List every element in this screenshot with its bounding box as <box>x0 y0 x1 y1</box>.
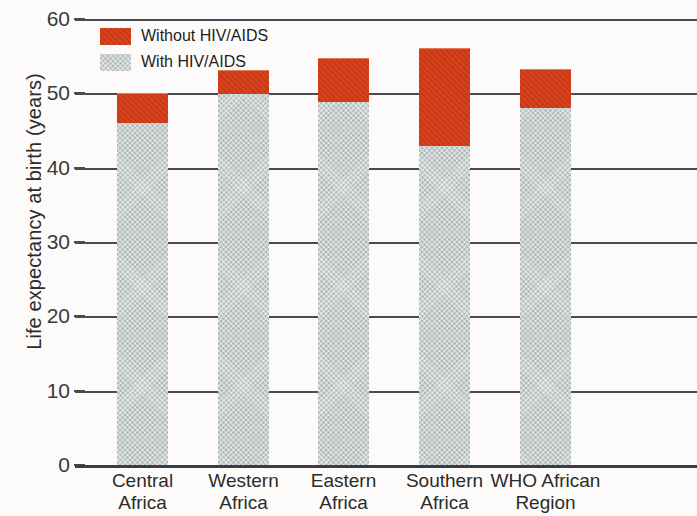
y-axis-tick-0: 0 <box>26 465 70 489</box>
y-axis-title: Life expectancy at birth (years) <box>23 0 46 432</box>
y-axis-tick-label: 60 <box>26 7 70 31</box>
gridline-10 <box>75 391 697 393</box>
legend-swatch-without-hiv-icon <box>100 28 131 45</box>
y-axis-tick-20: 20 <box>26 316 70 340</box>
x-axis-tick-label-line: Region <box>476 492 616 514</box>
y-axis-tick-60: 60 <box>26 19 70 43</box>
bar-southern-africa <box>419 48 470 465</box>
bar-western-africa <box>218 70 269 465</box>
bar-eastern-africa <box>318 58 369 465</box>
bar-segment-with-hiv <box>117 122 168 465</box>
gridline-20 <box>75 316 697 318</box>
y-axis-tick-30: 30 <box>26 242 70 266</box>
gridline-30 <box>75 242 697 244</box>
y-axis-tick-label: 30 <box>26 230 70 254</box>
bar-segment-with-hiv <box>520 107 571 465</box>
bar-segment-without-hiv <box>419 48 470 146</box>
gridline-40 <box>75 168 697 170</box>
y-axis-tick-10: 10 <box>26 391 70 415</box>
bar-segment-without-hiv <box>218 70 269 95</box>
x-axis-tick-label-4: WHO AfricanRegion <box>476 470 616 514</box>
y-axis-tick-label: 50 <box>26 81 70 105</box>
bar-segment-without-hiv <box>117 93 168 123</box>
legend-swatch-with-hiv-icon <box>100 54 131 71</box>
legend-label-without-hiv: Without HIV/AIDS <box>141 27 268 45</box>
y-axis-tick-label: 40 <box>26 156 70 180</box>
legend-label-with-hiv: With HIV/AIDS <box>141 53 246 71</box>
life-expectancy-stacked-bar-chart: Life expectancy at birth (years) 6050403… <box>0 0 697 516</box>
x-axis-line <box>75 465 697 468</box>
gridline-50 <box>75 93 697 95</box>
y-axis-tick-label: 20 <box>26 304 70 328</box>
bar-segment-with-hiv <box>318 101 369 465</box>
y-axis-tick-label: 10 <box>26 379 70 403</box>
bar-who-african-region <box>520 69 571 465</box>
y-axis-tick-40: 40 <box>26 168 70 192</box>
y-axis-tick-label: 0 <box>26 453 70 477</box>
y-axis-tick-50: 50 <box>26 93 70 117</box>
bar-segment-without-hiv <box>520 69 571 109</box>
bar-central-africa <box>117 93 168 465</box>
x-axis-tick-label-line: WHO African <box>476 470 616 492</box>
bar-segment-with-hiv <box>218 93 269 465</box>
bar-segment-without-hiv <box>318 58 369 102</box>
gridline-60 <box>75 19 697 21</box>
bar-segment-with-hiv <box>419 145 470 465</box>
plot-area <box>75 0 697 516</box>
